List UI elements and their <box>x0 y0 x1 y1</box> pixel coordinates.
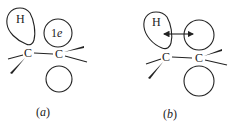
carbon-right: C <box>55 47 63 61</box>
hydrogen-label: H <box>152 15 161 29</box>
bond-left-thin <box>146 59 161 64</box>
hydrogen-label: H <box>16 12 25 26</box>
lower-orbital <box>184 66 214 96</box>
panel-label-b: (b) <box>163 107 177 121</box>
orbital-electron-label: 1e <box>51 26 63 40</box>
bond-right-wedge-up <box>64 46 84 52</box>
upper-orbital <box>184 20 214 50</box>
bond-right-wedge-up <box>204 49 222 56</box>
bond-right-down <box>205 60 227 65</box>
carbon-right: C <box>195 51 203 65</box>
cc-bond <box>34 53 53 54</box>
bond-right-down <box>65 56 87 62</box>
bond-left-wedge <box>10 58 25 74</box>
lower-orbital <box>46 66 72 92</box>
panel-label-a: (a) <box>36 105 50 119</box>
carbon-left: C <box>162 50 170 64</box>
bond-left-thin <box>8 55 23 59</box>
carbon-left: C <box>24 46 32 60</box>
bond-left-wedge <box>148 62 163 79</box>
panel-b: H C C (b) <box>144 12 227 121</box>
hyperconjugation-diagram: H 1e C C (a) H C C (b) <box>0 0 230 127</box>
cc-bond <box>172 57 192 58</box>
panel-a: H 1e C C (a) <box>7 8 87 119</box>
